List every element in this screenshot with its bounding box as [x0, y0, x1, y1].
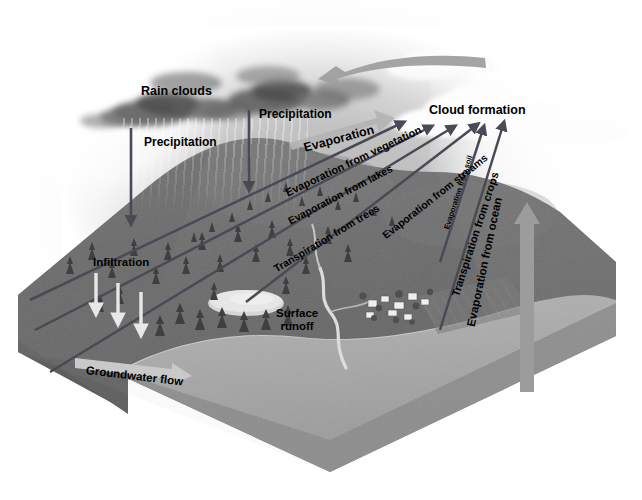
label-surface-runoff: Surface runoff — [276, 307, 318, 333]
precipitation-arrows — [131, 110, 249, 224]
water-cycle-diagram: Rain clouds Precipitation Precipitation … — [0, 0, 642, 500]
arrow-evaporation-from-vegetation — [30, 122, 404, 300]
evaporation-rising-arrows — [30, 122, 504, 372]
label-cloud-formation: Cloud formation — [429, 103, 526, 117]
infiltration-arrows — [96, 273, 141, 335]
label-infiltration: Infiltration — [93, 256, 149, 269]
arrow-layer — [0, 0, 642, 500]
label-precipitation-left: Precipitation — [144, 136, 217, 149]
label-precipitation-right: Precipitation — [259, 108, 332, 121]
moisture-transport-curved-arrow — [318, 56, 486, 86]
arrow-evaporation-from-ocean — [514, 202, 540, 392]
label-surface-runoff-line1: Surface — [276, 307, 318, 320]
arrow-transpiration-from-trees — [50, 126, 455, 372]
label-rain-clouds: Rain clouds — [141, 84, 212, 98]
label-surface-runoff-line2: runoff — [276, 320, 318, 333]
